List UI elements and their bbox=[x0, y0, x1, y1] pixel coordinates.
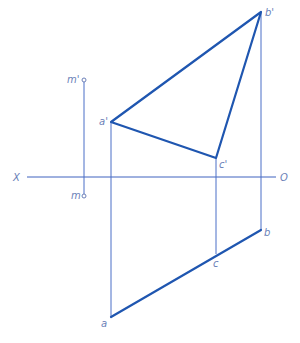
top-view-line-abc bbox=[111, 230, 261, 317]
label-c-prime: c' bbox=[219, 159, 227, 170]
label-a-prime: a' bbox=[99, 116, 108, 127]
label-a: a bbox=[101, 318, 107, 329]
label-b-prime: b' bbox=[265, 7, 274, 18]
axis-label-o: O bbox=[280, 172, 288, 183]
front-view-triangle bbox=[111, 12, 261, 158]
label-c: c bbox=[213, 258, 219, 269]
projection-diagram: X O b' a' c' m' m b c a bbox=[0, 0, 300, 343]
point-m-prime bbox=[82, 78, 86, 82]
point-m bbox=[82, 194, 86, 198]
label-m: m bbox=[71, 190, 81, 201]
label-m-prime: m' bbox=[67, 74, 80, 85]
label-b: b bbox=[264, 227, 270, 238]
axis-label-x: X bbox=[12, 172, 21, 183]
